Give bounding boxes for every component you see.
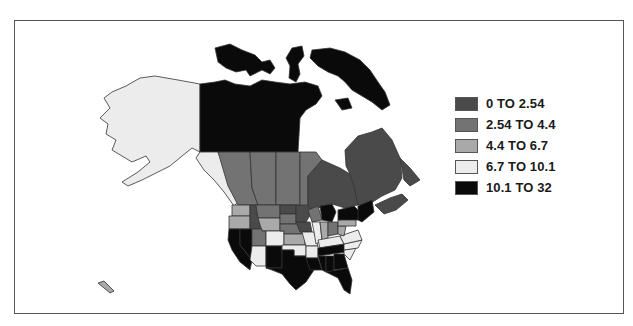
legend-item: 0 TO 2.54: [455, 93, 556, 114]
region-new-mexico: [266, 246, 282, 268]
region-alabama: [326, 256, 334, 272]
region-ohio: [328, 222, 338, 236]
region-kansas: [284, 234, 305, 245]
legend-swatch: [455, 160, 478, 174]
legend-label: 2.54 TO 4.4: [486, 117, 556, 132]
legend-item: 10.1 TO 32: [455, 177, 556, 198]
legend-item: 2.54 TO 4.4: [455, 114, 556, 135]
region-saskatchewan: [276, 152, 300, 205]
region-colorado: [266, 231, 284, 246]
region-alaska: [100, 76, 200, 186]
legend-swatch: [455, 139, 478, 153]
legend-label: 6.7 TO 10.1: [486, 159, 556, 174]
region-arizona: [250, 246, 266, 266]
legend-label: 0 TO 2.54: [486, 96, 544, 111]
legend-swatch: [455, 97, 478, 111]
region-montana: [256, 205, 280, 218]
legend-label: 4.4 TO 6.7: [486, 138, 548, 153]
region-oregon: [229, 216, 250, 229]
legend-item: 4.4 TO 6.7: [455, 135, 556, 156]
legend-item: 6.7 TO 10.1: [455, 156, 556, 177]
region-arctic-islands-west: [215, 44, 275, 76]
legend-swatch: [455, 118, 478, 132]
region-newfoundland: [400, 158, 420, 186]
region-new-york: [338, 206, 360, 220]
region-arctic-islands-small: [335, 98, 352, 110]
region-washington: [232, 205, 250, 216]
region-florida: [326, 268, 352, 294]
region-baffin-island: [310, 48, 390, 110]
region-north-dakota: [280, 205, 296, 214]
region-arkansas: [306, 246, 318, 258]
region-utah: [252, 229, 266, 246]
region-hawaii: [98, 281, 114, 293]
legend: 0 TO 2.54 2.54 TO 4.4 4.4 TO 6.7 6.7 TO …: [455, 93, 556, 198]
legend-label: 10.1 TO 32: [486, 180, 552, 195]
region-northwest-territories: [200, 80, 322, 152]
legend-swatch: [455, 181, 478, 195]
region-south-dakota: [280, 214, 296, 224]
region-arctic-islands-mid: [286, 46, 304, 82]
region-michigan: [320, 204, 336, 222]
